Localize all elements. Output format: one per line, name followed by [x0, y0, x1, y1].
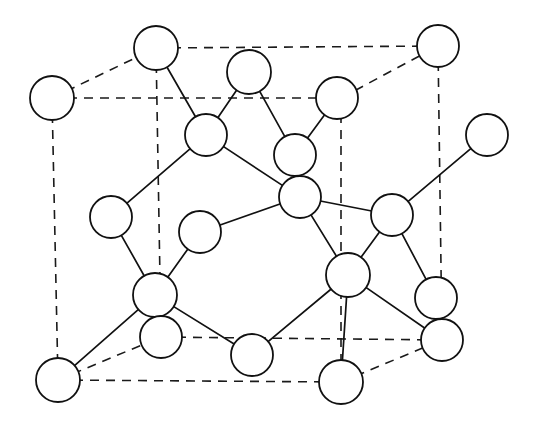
lattice-diagram — [0, 0, 538, 428]
atom-back-top-left-corner — [134, 26, 178, 70]
atom-front-bottom-left-corner — [36, 358, 80, 402]
atom-bottom-face-center — [231, 334, 273, 376]
atom-top-face-center-right — [316, 77, 358, 119]
atom-lower-tetrahedral-left — [133, 273, 177, 317]
atom-back-top-face-center — [227, 50, 271, 94]
atom-right-lower-overlap-upper — [415, 277, 457, 319]
atom-back-bottom-right-corner — [421, 319, 463, 361]
atom-back-top-right-corner — [417, 25, 459, 67]
atom-back-bottom-left-corner — [140, 316, 182, 358]
atom-upper-tetrahedral-left — [185, 114, 227, 156]
atom-right-face-center — [371, 194, 413, 236]
diamond-cubic-figure — [0, 0, 538, 428]
atom-front-top-left-corner — [30, 76, 74, 120]
atom-upper-tetrahedral-center — [274, 134, 316, 176]
atom-front-bottom-right-corner — [319, 360, 363, 404]
atom-left-face-center — [90, 196, 132, 238]
atom-lower-tetrahedral-right — [326, 253, 370, 297]
atom-interior-free-atom — [179, 211, 221, 253]
atom-right-outer-atom — [466, 114, 508, 156]
atom-mid-right-overlap-atom — [279, 176, 321, 218]
